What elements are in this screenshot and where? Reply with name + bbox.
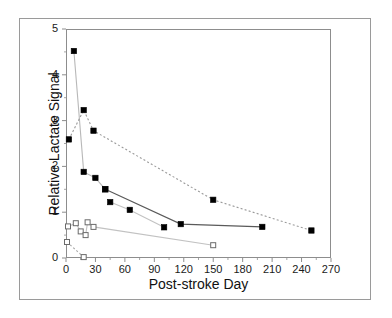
- series-line-subject-4-lower-solid: [110, 202, 164, 227]
- data-point-marker: [108, 199, 113, 204]
- data-point-marker: [78, 229, 83, 234]
- data-point-marker: [161, 225, 166, 230]
- x-tick-label: 180: [228, 264, 258, 275]
- data-point-marker: [211, 243, 216, 248]
- data-point-marker: [65, 240, 70, 245]
- data-point-marker: [81, 107, 86, 112]
- data-point-marker: [81, 169, 86, 174]
- data-point-marker: [103, 187, 108, 192]
- data-point-marker: [71, 48, 76, 53]
- data-point-marker: [127, 207, 132, 212]
- data-point-marker: [73, 221, 78, 226]
- x-tick-label: 270: [316, 264, 346, 275]
- data-point-marker: [91, 128, 96, 133]
- series-line-subject-2-upper-dashed: [69, 110, 312, 230]
- data-point-marker: [81, 255, 86, 260]
- x-tick-label: 30: [80, 264, 110, 275]
- x-axis-title: Post-stroke Day: [66, 276, 331, 292]
- data-point-marker: [309, 228, 314, 233]
- y-axis-title: Relative Lactate Signal: [46, 24, 62, 264]
- x-tick-label: 120: [169, 264, 199, 275]
- data-point-marker: [85, 220, 90, 225]
- x-tick-label: 210: [257, 264, 287, 275]
- x-tick-label: 0: [51, 264, 81, 275]
- x-tick-label: 240: [287, 264, 317, 275]
- x-tick-label: 150: [198, 264, 228, 275]
- axis-ticks-layer: [62, 29, 331, 262]
- figure-container: 012345 0306090120150180210240270 Post-st…: [0, 0, 392, 318]
- data-point-marker: [178, 221, 183, 226]
- data-point-marker: [260, 224, 265, 229]
- x-tick-label: 90: [139, 264, 169, 275]
- data-point-marker: [93, 175, 98, 180]
- data-point-marker: [66, 137, 71, 142]
- data-point-marker: [91, 224, 96, 229]
- data-series-layer: [65, 48, 315, 259]
- data-point-marker: [83, 233, 88, 238]
- data-point-marker: [66, 224, 71, 229]
- series-line-subject-5-open-square-cluster: [68, 222, 213, 245]
- x-tick-label: 60: [110, 264, 140, 275]
- data-point-marker: [211, 197, 216, 202]
